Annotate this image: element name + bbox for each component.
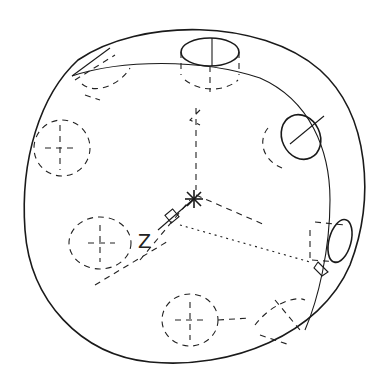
hole-hidden-upper-left	[75, 55, 130, 100]
dotted-axis-line	[180, 225, 310, 262]
flange-drawing	[0, 0, 387, 386]
z-axis-label: Z	[138, 232, 151, 251]
hole-hidden-left-lower	[69, 217, 131, 269]
ucs-origin-asterisk-icon	[185, 190, 203, 208]
center-hidden-lines	[95, 108, 265, 285]
hole-hidden-left	[34, 120, 90, 176]
hole-hidden-bottom	[162, 294, 250, 346]
